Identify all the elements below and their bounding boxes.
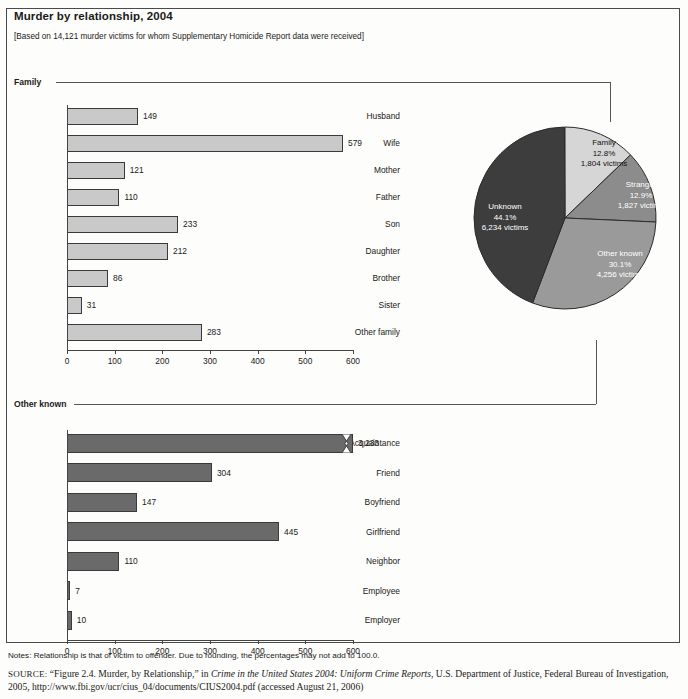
pie-slice-victims: 6,234 victims	[482, 223, 529, 234]
pie-slice-percent: 12.9%	[618, 191, 665, 202]
bar-category-label: Friend	[339, 468, 400, 478]
bar-value-label: 445	[284, 527, 298, 537]
pie-slice-percent: 44.1%	[482, 213, 529, 224]
bar-value-label: 10	[77, 615, 86, 625]
x-axis-tick	[115, 640, 116, 644]
bar	[67, 493, 137, 512]
x-axis-tick	[162, 640, 163, 644]
bar-value-label: 7	[75, 586, 80, 596]
bar	[67, 463, 212, 482]
pie-slice-percent: 30.1%	[597, 260, 644, 271]
bar-value-label: 3,233	[358, 438, 379, 448]
chart-other-known: Acquaintance3,233Friend304Boyfriend147Gi…	[0, 0, 400, 650]
pie-slice-name: Unknown	[482, 202, 529, 213]
pie-label-stranger: Stranger12.9%1,827 victims	[618, 180, 665, 212]
pie-slice-name: Family	[581, 138, 628, 149]
bar-category-label: Employer	[339, 615, 400, 625]
bar-category-label: Girlfriend	[339, 527, 400, 537]
bar	[67, 434, 353, 453]
section-connector-family	[610, 82, 611, 122]
bar-value-label: 147	[142, 497, 156, 507]
x-axis-tick	[353, 640, 354, 644]
axis-break-icon	[342, 434, 355, 457]
x-axis-tick	[258, 640, 259, 644]
bar	[67, 552, 119, 571]
pie-slice-victims: 4,256 victims	[597, 270, 644, 281]
pie-label-other-known: Other known30.1%4,256 victims	[597, 249, 644, 281]
pie-slice-victims: 1,804 victims	[581, 159, 628, 170]
notes-text: Notes: Relationship is that of victim to…	[8, 651, 380, 660]
bar-category-label: Boyfriend	[339, 497, 400, 507]
pie-slice-name: Stranger	[618, 180, 665, 191]
bar-value-label: 110	[124, 556, 137, 566]
bar-category-label: Neighbor	[339, 556, 400, 566]
section-connector-other-known	[596, 340, 597, 404]
source-prefix: SOURCE:	[8, 669, 47, 679]
x-axis-tick	[67, 640, 68, 644]
pie-slice-percent: 12.8%	[581, 149, 628, 160]
bar	[67, 522, 279, 541]
pie-label-unknown: Unknown44.1%6,234 victims	[482, 202, 529, 234]
y-axis	[67, 430, 68, 640]
source-italic-title: Crime in the United States 2004: Uniform…	[211, 668, 431, 679]
x-axis-tick	[305, 640, 306, 644]
bar-value-label: 304	[217, 468, 231, 478]
x-axis-tick	[210, 640, 211, 644]
source-text: SOURCE: “Figure 2.4. Murder, by Relation…	[8, 668, 684, 693]
pie-slice-victims: 1,827 victims	[618, 201, 665, 212]
bar-category-label: Employee	[339, 586, 400, 596]
pie-slice-name: Other known	[597, 249, 644, 260]
pie-label-family: Family12.8%1,804 victims	[581, 138, 628, 170]
source-part1: “Figure 2.4. Murder, by Relationship,” i…	[47, 668, 210, 679]
